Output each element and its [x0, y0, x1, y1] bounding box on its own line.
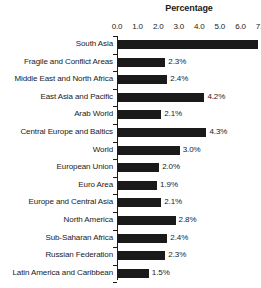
- y-tick-mark: [113, 265, 117, 266]
- bar-row: 1.9%: [117, 177, 261, 195]
- category-label: Latin America and Caribbean: [0, 268, 113, 278]
- bar-row: 4.2%: [117, 89, 261, 107]
- category-label: Middle East and North Africa: [0, 74, 113, 84]
- bar-value-label: 4.2%: [207, 92, 225, 102]
- bar: [118, 251, 165, 260]
- y-tick-mark: [113, 71, 117, 72]
- x-tick-label: 2.0: [147, 22, 169, 32]
- x-tick-label: 3.0: [168, 22, 190, 32]
- bar-value-label: 2.3%: [168, 57, 186, 67]
- bar-value-label: 2.4%: [170, 233, 188, 243]
- y-tick-mark: [113, 247, 117, 248]
- category-label: Euro Area: [0, 180, 113, 190]
- category-label: South Asia: [0, 39, 113, 49]
- x-tick-label: 1.0: [127, 22, 149, 32]
- y-tick-mark: [113, 124, 117, 125]
- x-tick-label: 4.0: [188, 22, 210, 32]
- bar-value-label: 2.0%: [162, 162, 180, 172]
- bar: [118, 93, 204, 102]
- bar: [118, 198, 161, 207]
- category-label: Russian Federation: [0, 250, 113, 260]
- category-label: North America: [0, 215, 113, 225]
- bar-value-label: 2.8%: [179, 215, 197, 225]
- category-label: Europe and Central Asia: [0, 197, 113, 207]
- bar-row: 2.4%: [117, 71, 261, 89]
- x-axis-tick-labels: 0.01.02.03.04.05.06.07.0: [0, 22, 261, 34]
- y-axis-category-labels: South AsiaFragile and Conflict AreasMidd…: [0, 36, 113, 282]
- bar-row: 2.0%: [117, 159, 261, 177]
- bar-value-label: 1.9%: [160, 180, 178, 190]
- category-label: Central Europe and Baltics: [0, 127, 113, 137]
- bar-row: 2.3%: [117, 247, 261, 265]
- category-label: Arab World: [0, 109, 113, 119]
- y-tick-mark: [113, 106, 117, 107]
- bar-value-label: 1.5%: [152, 268, 170, 278]
- x-tick-label: 0.0: [106, 22, 128, 32]
- bar: [118, 163, 159, 172]
- y-tick-mark: [113, 212, 117, 213]
- bar-value-label: 2.3%: [168, 250, 186, 260]
- x-tick-label: 7.0: [250, 22, 261, 32]
- y-tick-mark: [113, 54, 117, 55]
- bar-chart: Percentage 0.01.02.03.04.05.06.07.0 Sout…: [0, 0, 261, 288]
- y-tick-mark: [113, 282, 117, 283]
- x-tick-label: 5.0: [209, 22, 231, 32]
- category-label: European Union: [0, 162, 113, 172]
- y-tick-mark: [113, 230, 117, 231]
- bar: [118, 216, 176, 225]
- bar-row: 2.4%: [117, 230, 261, 248]
- y-tick-mark: [113, 89, 117, 90]
- bar-value-label: 3.0%: [183, 145, 201, 155]
- bar: [118, 269, 149, 278]
- category-label: World: [0, 145, 113, 155]
- bar-row: 6.8%: [117, 36, 261, 54]
- bar: [118, 110, 161, 119]
- bar: [118, 40, 258, 49]
- bar-value-label: 2.4%: [170, 74, 188, 84]
- bar-row: 2.1%: [117, 106, 261, 124]
- bar-value-label: 2.1%: [164, 197, 182, 207]
- category-label: East Asia and Pacific: [0, 92, 113, 102]
- x-tick-label: 6.0: [229, 22, 251, 32]
- bar: [118, 181, 157, 190]
- y-tick-mark: [113, 142, 117, 143]
- bar-value-label: 2.1%: [164, 109, 182, 119]
- y-tick-mark: [113, 159, 117, 160]
- bar-row: 2.1%: [117, 194, 261, 212]
- category-label: Fragile and Conflict Areas: [0, 57, 113, 67]
- bar-row: 1.5%: [117, 265, 261, 283]
- category-label: Sub-Saharan Africa: [0, 233, 113, 243]
- chart-title: Percentage: [117, 3, 261, 14]
- bar-row: 3.0%: [117, 142, 261, 160]
- y-tick-mark: [113, 177, 117, 178]
- bar: [118, 128, 206, 137]
- bar: [118, 75, 167, 84]
- y-tick-mark: [113, 36, 117, 37]
- y-tick-mark: [113, 194, 117, 195]
- bar: [118, 58, 165, 67]
- bar-value-label: 4.3%: [209, 127, 227, 137]
- bar-row: 2.3%: [117, 54, 261, 72]
- bar: [118, 146, 180, 155]
- bar-row: 4.3%: [117, 124, 261, 142]
- plot-area: 6.8%2.3%2.4%4.2%2.1%4.3%3.0%2.0%1.9%2.1%…: [117, 36, 261, 282]
- bar-row: 2.8%: [117, 212, 261, 230]
- bar: [118, 234, 167, 243]
